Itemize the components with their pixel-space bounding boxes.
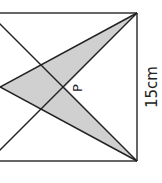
point-p-label: P bbox=[70, 84, 85, 92]
shaded-region bbox=[0, 13, 137, 161]
geometry-diagram: P 15cm bbox=[0, 0, 162, 183]
side-length-label: 15cm bbox=[143, 66, 161, 108]
